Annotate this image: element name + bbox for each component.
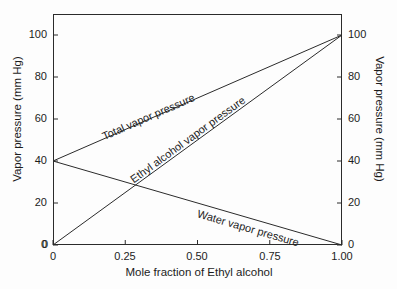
line-total-vapor-pressure bbox=[53, 35, 342, 161]
xtick-label-075: 0.75 bbox=[255, 251, 285, 262]
vapor-pressure-chart: 100 80 60 40 20 0 100 80 60 40 20 0 0 0 … bbox=[0, 0, 397, 289]
xtick-label-050: 0.50 bbox=[182, 251, 212, 262]
xtick-label-025: 0.25 bbox=[110, 251, 140, 262]
y-axis-title-left: Vapor pressure (mm Hg) bbox=[11, 39, 23, 199]
xtick-label-0: 0 bbox=[38, 251, 68, 262]
line-water-vapor-pressure bbox=[53, 161, 342, 245]
y-axis-title-right: Vapor pressure (mm Hg) bbox=[374, 39, 386, 199]
x-axis-title: Mole fraction of Ethyl alcohol bbox=[99, 266, 299, 278]
ytick-label-right-0: 0 bbox=[348, 239, 378, 250]
xtick-label-100: 1.00 bbox=[327, 251, 357, 262]
corner-zero-left: 0 bbox=[42, 239, 48, 250]
